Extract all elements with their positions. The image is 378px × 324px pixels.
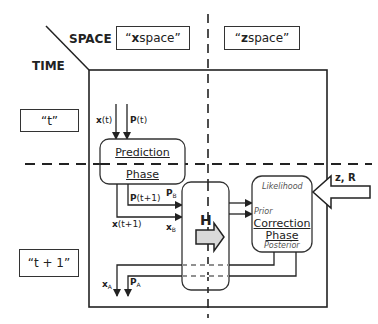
z-space-text: space — [248, 31, 283, 45]
p-t-plus-1-label: P(t+1) — [130, 194, 160, 203]
x-t-label: x(t) — [96, 116, 112, 125]
time-header: TIME — [32, 60, 65, 72]
likelihood-label: Likelihood — [262, 182, 303, 191]
x-space-label: “x space” — [116, 26, 190, 50]
p-a-label: PA — [130, 278, 141, 288]
close-quote: ” — [174, 31, 180, 45]
prediction-title: Prediction — [100, 146, 185, 159]
x-b-label: xB — [166, 223, 176, 233]
time-t-label: “t” — [20, 109, 79, 132]
z-space-var: z — [241, 31, 248, 45]
x-t-plus-1-label: x(t+1) — [112, 220, 142, 229]
space-header: SPACE — [69, 33, 112, 45]
prediction-phase-text: Phase — [100, 168, 185, 181]
z-space-label: “z space” — [224, 26, 300, 50]
time-t-plus-1-label: “t + 1” — [19, 249, 79, 277]
x-space-text: space — [139, 31, 174, 45]
observations-label: z, R — [335, 173, 356, 183]
close-quote: ” — [283, 31, 289, 45]
p-t-label: P(t) — [130, 116, 147, 125]
x-space-var: x — [132, 31, 140, 45]
p-b-label: PB — [166, 189, 177, 199]
x-a-label: xA — [102, 280, 112, 290]
posterior-label: Posterior — [264, 241, 300, 250]
prior-label: Prior — [254, 207, 273, 216]
h-operator-label: H — [200, 213, 212, 227]
